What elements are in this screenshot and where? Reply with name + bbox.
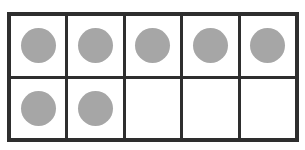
counter-circle-icon (21, 28, 56, 63)
ten-frame-cell (183, 79, 237, 139)
ten-frame (7, 12, 299, 142)
ten-frame-cell (11, 16, 65, 76)
ten-frame-cell (183, 16, 237, 76)
counter-circle-icon (135, 28, 170, 63)
ten-frame-cell (68, 79, 122, 139)
ten-frame-cell (126, 16, 180, 76)
counter-circle-icon (21, 91, 56, 126)
counter-circle-icon (193, 28, 228, 63)
ten-frame-cell (241, 79, 295, 139)
ten-frame-cell (68, 16, 122, 76)
ten-frame-cell (11, 79, 65, 139)
counter-circle-icon (250, 28, 285, 63)
counter-circle-icon (78, 91, 113, 126)
ten-frame-cell (241, 16, 295, 76)
counter-circle-icon (78, 28, 113, 63)
ten-frame-cell (126, 79, 180, 139)
